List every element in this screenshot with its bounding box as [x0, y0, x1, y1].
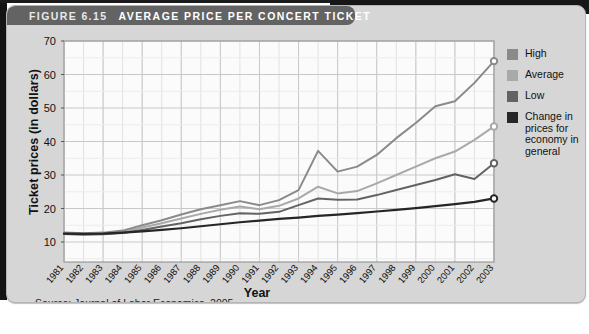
svg-text:1990: 1990 [219, 262, 241, 283]
svg-text:40: 40 [44, 136, 56, 148]
svg-text:1981: 1981 [44, 262, 66, 283]
figure-title-bar: FIGURE 6.15 AVERAGE PRICE PER CONCERT TI… [7, 6, 355, 25]
svg-text:1998: 1998 [376, 262, 398, 283]
source-note: Source: Journal of Labor Economics, 2005… [35, 297, 236, 303]
legend-swatch-icon [507, 112, 518, 123]
svg-text:1991: 1991 [239, 262, 261, 283]
figure-number: FIGURE 6.15 [29, 10, 107, 22]
svg-text:2002: 2002 [454, 262, 476, 283]
svg-text:1987: 1987 [161, 262, 183, 283]
svg-text:1983: 1983 [83, 262, 105, 283]
legend-item: Low [507, 90, 586, 102]
legend-label: Change in prices for economy in general [525, 111, 583, 157]
line-chart-plot: 1020304050607019811982198319841985198619… [7, 25, 585, 283]
svg-text:10: 10 [44, 236, 56, 248]
legend-swatch-icon [507, 49, 518, 60]
svg-text:1993: 1993 [278, 262, 300, 283]
figure-title: AVERAGE PRICE PER CONCERT TICKET [118, 10, 371, 22]
svg-text:1985: 1985 [122, 262, 144, 283]
svg-text:1999: 1999 [395, 262, 417, 283]
svg-text:70: 70 [44, 35, 56, 47]
legend-item: Average [507, 69, 586, 81]
legend-label: High [525, 48, 547, 60]
legend-swatch-icon [507, 70, 518, 81]
svg-text:2001: 2001 [434, 262, 456, 283]
figure-container: FIGURE 6.15 AVERAGE PRICE PER CONCERT TI… [6, 5, 586, 303]
legend-label: Low [525, 90, 544, 102]
svg-text:30: 30 [44, 169, 56, 181]
svg-text:1997: 1997 [356, 262, 378, 283]
svg-text:2003: 2003 [474, 262, 496, 283]
svg-text:60: 60 [44, 69, 56, 81]
svg-text:2000: 2000 [415, 262, 437, 283]
chart-legend: HighAverageLowChange in prices for econo… [507, 48, 586, 166]
svg-text:1989: 1989 [200, 262, 222, 283]
svg-text:1994: 1994 [298, 262, 320, 283]
legend-swatch-icon [507, 91, 518, 102]
svg-text:1988: 1988 [180, 262, 202, 283]
chart-area: Ticket prices (in dollars) 1020304050607… [7, 25, 585, 302]
svg-text:20: 20 [44, 203, 56, 215]
svg-text:1995: 1995 [317, 262, 339, 283]
svg-text:1996: 1996 [337, 262, 359, 283]
svg-text:1992: 1992 [259, 262, 281, 283]
legend-item: Change in prices for economy in general [507, 111, 586, 157]
svg-text:1986: 1986 [141, 262, 163, 283]
svg-text:1982: 1982 [63, 262, 85, 283]
svg-text:1984: 1984 [102, 262, 124, 283]
legend-label: Average [525, 69, 564, 81]
legend-item: High [507, 48, 586, 60]
svg-text:50: 50 [44, 102, 56, 114]
